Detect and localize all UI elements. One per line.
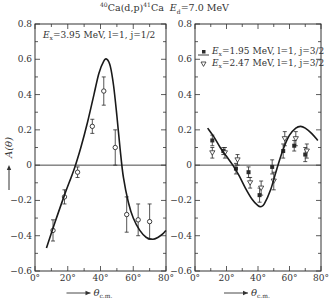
x-tick-label: 20° [60,273,76,283]
y-tick-label: −0.2 [10,195,32,205]
x-tick-label: 60° [125,273,141,283]
x-tick-label: 20° [219,273,235,283]
y-tick-label: −0.4 [170,231,192,241]
svg-text:Ex=2.47 MeV, l=1, j=3/2: Ex=2.47 MeV, l=1, j=3/2 [211,58,324,69]
data-point [210,148,215,159]
plot-frame [35,24,166,271]
right-panel: 0.80.60.40.20−0.2−0.4−0.60°20°40°60°80°θ… [170,19,329,299]
data-point [113,130,117,165]
y-axis-label: A(θ) [3,137,14,159]
y-tick-label: 0.2 [18,125,32,135]
y-tick-label: 0.8 [18,19,33,29]
triangle-marker-icon [201,62,206,66]
y-tick-label: −0.4 [10,231,32,241]
data-point [147,204,151,239]
legend-item: Ex=2.47 MeV, l=1, j=3/2 [201,58,324,69]
panel-annotation: Ex=3.95 MeV, l=1, j=1/2 [42,30,155,41]
chart-labels: A(θ) [3,137,14,190]
data-point [75,167,79,178]
x-tick-label: 0° [190,273,200,283]
y-tick-label: 0.6 [178,54,193,64]
data-point [248,177,253,188]
x-tick-label: 40° [93,273,109,283]
x-tick-label: 60° [282,273,298,283]
left-panel: 0.80.60.40.20−0.2−0.4−0.60°20°40°60°80°θ… [10,19,174,299]
x-axis-label-sub: c.m. [257,292,270,299]
y-tick-label: 0.4 [178,90,193,100]
x-tick-label: 0° [30,273,40,283]
data-point [102,77,106,105]
legend-item: Ex=1.95 MeV, l=1, j=3/2 [198,46,324,57]
x-tick-label: 40° [250,273,266,283]
y-tick-label: 0 [186,160,192,170]
y-tick-label: 0 [26,160,32,170]
y-tick-label: 0.2 [178,125,192,135]
y-tick-label: −0.2 [170,195,192,205]
x-axis-label-sub: c.m. [100,292,113,299]
filled-marker-icon [202,50,206,54]
y-tick-label: 0.4 [18,90,33,100]
data-point [90,119,94,133]
theory-curve [208,126,318,206]
data-point [247,167,251,178]
y-tick-label: 0.6 [18,54,33,64]
x-tick-label: 80° [313,273,329,283]
y-tick-label: 0.8 [178,19,193,29]
svg-text:Ex=1.95 MeV, l=1, j=3/2: Ex=1.95 MeV, l=1, j=3/2 [211,46,324,57]
chart-canvas: 0.80.60.40.20−0.2−0.4−0.60°20°40°60°80°θ… [0,0,329,299]
